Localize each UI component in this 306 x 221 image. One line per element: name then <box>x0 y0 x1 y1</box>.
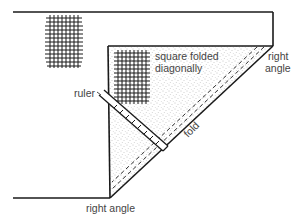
label-angle-top: angle <box>265 62 291 74</box>
label-ruler: ruler <box>74 87 96 99</box>
bias-fold-diagram: square folded diagonally right angle rul… <box>0 0 306 221</box>
label-right-top: right <box>268 50 289 62</box>
label-square-folded: square folded <box>155 50 219 62</box>
label-diagonally: diagonally <box>155 62 203 74</box>
ruler-leader-line <box>97 92 101 95</box>
weave-grid-top <box>45 15 83 68</box>
label-right-angle-bottom: right angle <box>86 202 135 214</box>
diagram-canvas: square folded diagonally right angle rul… <box>0 0 306 221</box>
